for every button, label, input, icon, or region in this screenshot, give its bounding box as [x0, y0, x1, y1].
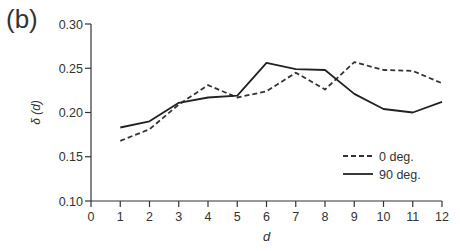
y-tick-label: 0.10 [59, 195, 83, 209]
y-tick-label: 0.30 [59, 18, 83, 32]
x-tick-label: 2 [146, 210, 153, 224]
y-tick-label: 0.25 [59, 62, 83, 76]
y-tick-label: 0.20 [59, 106, 83, 120]
x-tick-label: 7 [292, 210, 299, 224]
x-tick-label: 11 [406, 210, 419, 224]
x-tick-label: 0 [88, 210, 95, 224]
data-lines [120, 62, 442, 141]
series-line-0 [120, 62, 442, 141]
x-tick-label: 12 [435, 210, 449, 224]
y-axis-label: δ (d) [29, 100, 43, 125]
x-tick-label: 6 [263, 210, 270, 224]
x-axis-label: d [263, 229, 271, 244]
x-tick-label: 10 [377, 210, 391, 224]
legend-label-1: 90 deg. [379, 168, 421, 182]
x-tick-label: 1 [117, 210, 124, 224]
x-tick-label: 9 [351, 210, 358, 224]
line-chart: 0.100.150.200.250.300123456789101112dδ (… [0, 0, 460, 251]
y-tick-label: 0.15 [59, 150, 83, 164]
legend: 0 deg.90 deg. [343, 150, 421, 182]
axes: 0.100.150.200.250.300123456789101112dδ (… [29, 18, 449, 245]
legend-label-0: 0 deg. [379, 150, 414, 164]
x-tick-label: 3 [175, 210, 182, 224]
x-tick-label: 4 [205, 210, 212, 224]
x-tick-label: 5 [234, 210, 241, 224]
x-tick-label: 8 [322, 210, 329, 224]
series-line-1 [120, 63, 442, 128]
